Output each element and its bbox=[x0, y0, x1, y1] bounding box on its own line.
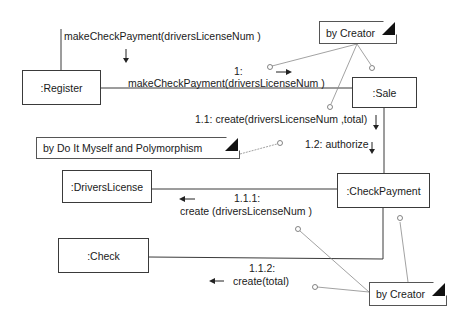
collaboration-diagram: :Register :Sale :DriversLicense :CheckPa… bbox=[0, 0, 468, 321]
message-1-1: 1.1: create(driversLicenseNum ,total) bbox=[195, 113, 367, 125]
object-sale-label: :Sale bbox=[373, 87, 397, 99]
note-by-creator-bottom: by Creator bbox=[369, 282, 447, 306]
note-by-creator-top: by Creator bbox=[319, 21, 397, 44]
note-do-it-myself: by Do It Myself and Polymorphism bbox=[36, 137, 240, 159]
object-check-payment: :CheckPayment bbox=[337, 173, 430, 208]
note-by-creator-bottom-text: by Creator bbox=[376, 288, 425, 300]
object-drivers-license-label: :DriversLicense bbox=[71, 181, 143, 193]
message-1-1-2-number: 1.1.2: bbox=[249, 262, 275, 274]
note-fold-icon bbox=[382, 22, 395, 35]
note-by-creator-top-text: by Creator bbox=[326, 27, 375, 39]
message-1-2: 1.2: authorize bbox=[305, 138, 369, 150]
object-register-label: :Register bbox=[40, 82, 82, 94]
note-fold-icon bbox=[225, 138, 238, 151]
note-do-it-myself-text: by Do It Myself and Polymorphism bbox=[43, 142, 202, 154]
object-drivers-license: :DriversLicense bbox=[62, 170, 152, 203]
message-1-1-1-text: create (driversLicenseNum ) bbox=[180, 205, 312, 217]
object-check-payment-label: :CheckPayment bbox=[346, 185, 420, 197]
object-check-label: :Check bbox=[87, 250, 120, 262]
message-1-1-1-number: 1.1.1: bbox=[234, 192, 260, 204]
message-1-number: 1: bbox=[234, 65, 243, 77]
message-incoming: makeCheckPayment(driversLicenseNum ) bbox=[64, 30, 261, 42]
message-1-text: makeCheckPayment(driversLicenseNum ) bbox=[128, 77, 325, 89]
object-register: :Register bbox=[22, 70, 101, 105]
object-check: :Check bbox=[58, 238, 149, 273]
note-fold-icon bbox=[432, 283, 445, 296]
object-sale: :Sale bbox=[352, 77, 417, 108]
message-1-1-2-text: create(total) bbox=[233, 275, 289, 287]
